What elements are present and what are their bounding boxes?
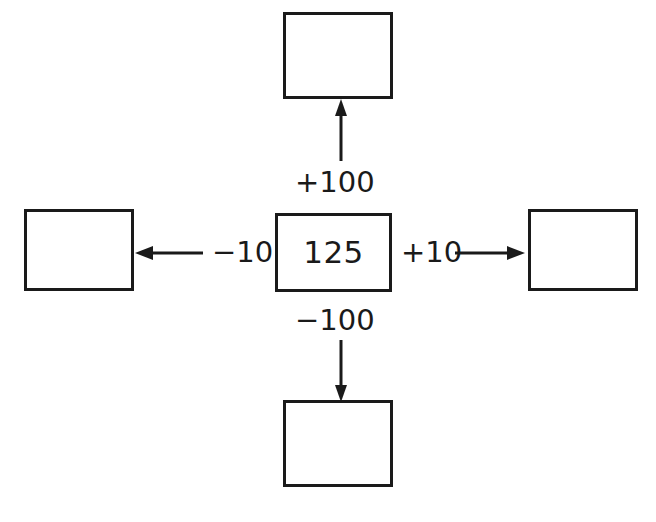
arrow-up-icon: [335, 99, 347, 161]
answer-box-left[interactable]: [24, 209, 134, 291]
edge-label-left: −10: [212, 238, 273, 267]
diagram-canvas: 125 +100 +10 −100 −10: [0, 0, 656, 522]
edge-label-down: −100: [295, 306, 375, 335]
answer-box-top[interactable]: [283, 12, 393, 99]
center-number-box: 125: [275, 213, 392, 292]
edge-label-up: +100: [295, 168, 375, 197]
answer-box-right[interactable]: [528, 209, 638, 291]
arrow-left-icon: [135, 246, 203, 260]
answer-box-bottom[interactable]: [283, 400, 393, 487]
arrow-down-icon: [335, 340, 347, 402]
arrow-right-icon: [455, 246, 525, 260]
edge-label-right: +10: [401, 238, 462, 267]
center-number-value: 125: [303, 237, 364, 268]
